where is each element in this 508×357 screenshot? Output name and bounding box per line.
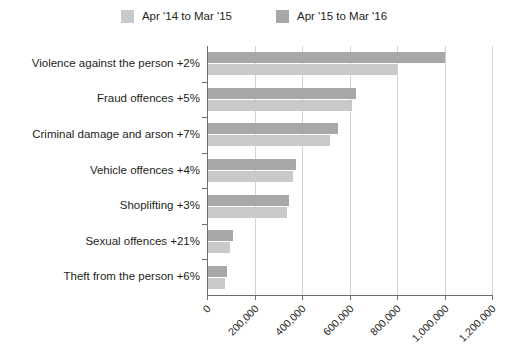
category-label: Shoplifting +3% [0, 199, 200, 212]
x-axis-tick-label: 800,000 [368, 303, 403, 338]
legend-label-apr15-mar16: Apr '15 to Mar '16 [297, 10, 387, 23]
x-axis-tick-label: 200,000 [226, 303, 261, 338]
legend-entry-1: Apr '15 to Mar '16 [276, 10, 387, 23]
y-axis-tick [202, 224, 207, 225]
bar-chart: Apr '14 to Mar '15 Apr '15 to Mar '16 Vi… [0, 0, 508, 357]
legend-swatch-apr15-mar16 [276, 10, 289, 23]
category-label: Fraud offences +5% [0, 92, 200, 105]
bar-apr15-mar16 [208, 123, 338, 134]
x-axis-tick-label: 600,000 [321, 303, 356, 338]
x-axis-tick-label: 1,200,000 [457, 303, 498, 344]
gridline [350, 46, 351, 295]
bar-apr15-mar16 [208, 52, 445, 63]
category-label: Theft from the person +6% [0, 270, 200, 283]
bar-apr14-mar15 [208, 135, 330, 146]
gridline [397, 46, 398, 295]
bar-apr15-mar16 [208, 230, 233, 241]
x-axis-tick-label: 400,000 [273, 303, 308, 338]
category-label: Vehicle offences +4% [0, 164, 200, 177]
y-axis-tick [202, 153, 207, 154]
bar-apr15-mar16 [208, 195, 289, 206]
y-axis-tick [202, 259, 207, 260]
x-axis-tick-label: 0 [201, 303, 213, 315]
bar-apr14-mar15 [208, 171, 293, 182]
x-axis-line [207, 295, 493, 296]
category-label: Violence against the person +2% [0, 57, 200, 70]
bar-apr14-mar15 [208, 207, 287, 218]
bar-apr14-mar15 [208, 278, 225, 289]
y-axis-tick [202, 117, 207, 118]
bar-apr15-mar16 [208, 266, 227, 277]
bar-apr15-mar16 [208, 88, 356, 99]
category-axis-labels: Violence against the person +2%Fraud off… [0, 0, 200, 357]
bar-apr14-mar15 [208, 242, 230, 253]
y-axis-tick [202, 82, 207, 83]
x-axis-tick-label: 1,000,000 [409, 303, 450, 344]
bar-apr14-mar15 [208, 64, 397, 75]
y-axis-tick [202, 188, 207, 189]
gridline [445, 46, 446, 295]
gridline [302, 46, 303, 295]
bar-apr15-mar16 [208, 159, 296, 170]
gridline [492, 46, 493, 295]
category-label: Criminal damage and arson +7% [0, 128, 200, 141]
bar-apr14-mar15 [208, 100, 352, 111]
category-label: Sexual offences +21% [0, 235, 200, 248]
